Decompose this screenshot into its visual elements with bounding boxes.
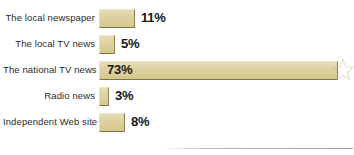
value-label: 8% [131,112,149,132]
baseline-rule [160,148,353,149]
category-label: Radio news [3,83,95,109]
category-label: Independent Web site [3,109,95,135]
value-label: 73% [107,60,132,80]
bar[interactable] [99,113,125,132]
category-label: The national TV news [3,57,95,83]
chart-row: The national TV news 73% [0,57,353,83]
category-label: The local newspaper [3,5,95,31]
value-label: 11% [141,8,166,28]
chart-row: Radio news 3% [0,83,353,109]
category-label: The local TV news [3,31,95,57]
value-label: 5% [121,34,139,54]
bar[interactable] [99,9,135,28]
bar[interactable] [99,35,115,54]
chart-row: The local newspaper 11% [0,5,353,31]
bar[interactable] [99,61,338,80]
value-label: 3% [115,86,133,106]
bar[interactable] [99,87,109,106]
chart-row: The local TV news 5% [0,31,353,57]
chart-row: Independent Web site 8% [0,109,353,135]
